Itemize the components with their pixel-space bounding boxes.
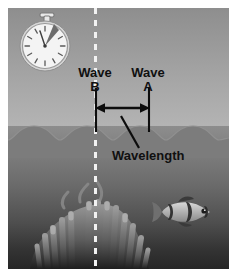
- clownfish: [152, 197, 210, 227]
- label-wave-b-word: Wave: [69, 66, 121, 80]
- label-wave-b: Wave B: [69, 66, 121, 93]
- label-wavelength: Wavelength: [112, 149, 184, 163]
- wave-diagram-figure: Wave B Wave A Wavelength: [0, 0, 238, 280]
- label-wave-a: Wave A: [122, 66, 174, 93]
- sea-anemone: [30, 180, 149, 269]
- stopwatch-icon: [14, 11, 76, 75]
- label-wave-a-letter: A: [122, 80, 174, 94]
- dashed-reference-line: [94, 8, 97, 269]
- ocean-scene: Wave B Wave A Wavelength: [8, 8, 229, 269]
- seabed-scene: [8, 158, 229, 269]
- label-wave-a-word: Wave: [122, 66, 174, 80]
- label-wave-b-letter: B: [69, 80, 121, 94]
